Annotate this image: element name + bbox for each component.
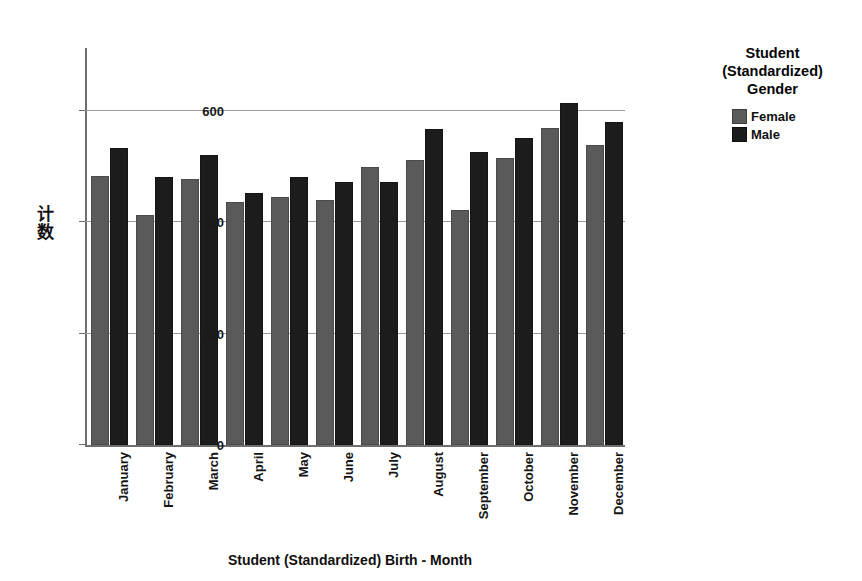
- legend-items: FemaleMale: [732, 109, 860, 142]
- bar-march-male: [200, 155, 218, 445]
- legend-title-line-2: (Standardized): [700, 62, 845, 80]
- legend-title: Student (Standardized) Gender: [700, 44, 845, 98]
- y-axis-title-char-2: 数: [28, 224, 62, 242]
- legend: Student (Standardized) Gender FemaleMale: [700, 44, 860, 145]
- x-tick-label-november: November: [566, 452, 581, 516]
- bar-august-female: [406, 160, 424, 445]
- legend-title-line-1: Student: [700, 44, 845, 62]
- bar-may-female: [271, 197, 289, 445]
- x-tick-labels: JanuaryFebruaryMarchAprilMayJuneJulyAugu…: [85, 452, 625, 547]
- legend-item-male: Male: [732, 127, 860, 142]
- y-tick-label-600: 600: [164, 104, 224, 119]
- bar-november-male: [560, 103, 578, 445]
- x-tick-label-july: July: [386, 452, 401, 478]
- x-axis-title: Student (Standardized) Birth - Month: [0, 552, 700, 568]
- bar-december-female: [586, 145, 604, 445]
- legend-title-line-3: Gender: [700, 80, 845, 98]
- legend-swatch-female-icon: [732, 109, 747, 124]
- bar-april-male: [245, 193, 263, 445]
- bar-january-male: [110, 148, 128, 445]
- bar-december-male: [605, 122, 623, 445]
- legend-item-female: Female: [732, 109, 860, 124]
- bar-april-female: [226, 202, 244, 445]
- bar-august-male: [425, 129, 443, 445]
- bar-september-male: [470, 152, 488, 445]
- x-tick-label-april: April: [251, 452, 266, 482]
- bar-october-female: [496, 158, 514, 445]
- bar-february-female: [136, 215, 154, 445]
- y-axis-title: 计 数: [28, 206, 62, 242]
- x-tick-label-august: August: [431, 452, 446, 497]
- x-tick-label-october: October: [521, 452, 536, 502]
- bar-may-male: [290, 177, 308, 445]
- bar-january-female: [91, 176, 109, 445]
- bar-july-female: [361, 167, 379, 445]
- bar-november-female: [541, 128, 559, 445]
- bar-june-female: [316, 200, 334, 445]
- y-tick-label-200: 200: [164, 326, 224, 341]
- bar-october-male: [515, 138, 533, 445]
- bar-june-male: [335, 182, 353, 445]
- x-tick-label-january: January: [116, 452, 131, 502]
- bar-chart: 计 数 0200400600 JanuaryFebruaryMarchApril…: [0, 0, 862, 581]
- legend-label-male: Male: [751, 127, 780, 142]
- bar-september-female: [451, 210, 469, 445]
- legend-swatch-male-icon: [732, 127, 747, 142]
- x-tick-label-december: December: [611, 452, 626, 515]
- x-tick-label-september: September: [476, 452, 491, 519]
- bar-july-male: [380, 182, 398, 445]
- x-tick-label-may: May: [296, 452, 311, 477]
- legend-label-female: Female: [751, 109, 796, 124]
- y-tick-label-0: 0: [164, 438, 224, 453]
- x-tick-label-june: June: [341, 452, 356, 482]
- x-tick-label-february: February: [161, 452, 176, 508]
- x-tick-label-march: March: [206, 452, 221, 490]
- y-tick-label-400: 400: [164, 215, 224, 230]
- y-axis-title-char-1: 计: [28, 206, 62, 224]
